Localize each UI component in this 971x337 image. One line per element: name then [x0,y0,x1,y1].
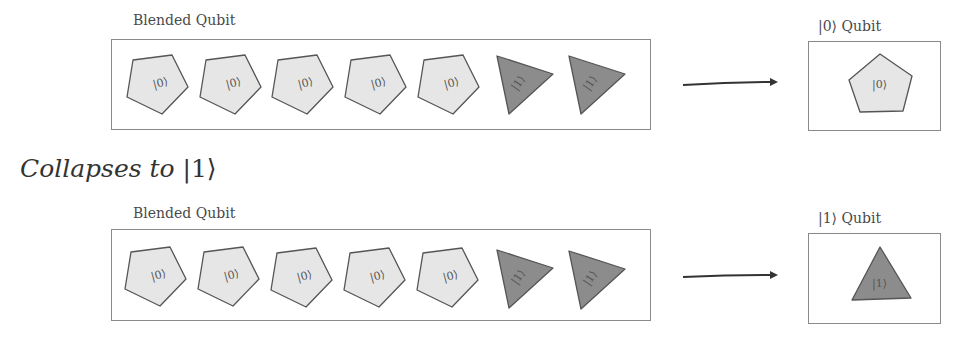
pentagon-zero-icon: |0⟩ [198,247,259,306]
pentagon-zero-icon: |0⟩ [345,55,406,114]
pentagon-zero-icon: |0⟩ [272,55,333,114]
result-triangle-one-icon: |1⟩ [852,247,911,300]
svg-text:|0⟩: |0⟩ [872,78,887,92]
pentagon-zero-icon: |0⟩ [125,247,186,306]
triangle-one-icon: |1⟩ [497,56,553,114]
pentagon-zero-icon: |0⟩ [200,55,261,114]
right-arrow-icon-bottom [683,271,778,279]
svg-text:|1⟩: |1⟩ [872,277,887,291]
triangle-one-icon: |1⟩ [569,56,625,114]
result-pentagon-zero-icon: |0⟩ [849,54,912,112]
pentagon-zero-icon: |0⟩ [271,248,332,307]
right-arrow-icon-top [683,78,778,86]
blended-shapes-bottom: |0⟩ |0⟩ |0⟩ |0⟩ |0⟩ |1⟩ |1⟩ [125,247,625,309]
pentagon-zero-icon: |0⟩ [127,55,188,114]
triangle-one-icon: |1⟩ [569,251,625,309]
pentagon-zero-icon: |0⟩ [417,248,478,307]
pentagon-zero-icon: |0⟩ [344,248,405,307]
qubit-collapse-diagram: |0⟩ |0⟩ |0⟩ |0⟩ |0⟩ |1⟩ |1⟩ |0⟩ |0⟩ |0⟩ … [0,0,971,337]
blended-shapes-top: |0⟩ |0⟩ |0⟩ |0⟩ |0⟩ |1⟩ |1⟩ [127,55,625,114]
triangle-one-icon: |1⟩ [497,250,553,308]
pentagon-zero-icon: |0⟩ [418,55,479,114]
